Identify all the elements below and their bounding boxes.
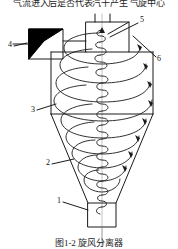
callout-2-cone: 2 (46, 159, 50, 167)
leader-line-1 (63, 202, 88, 210)
figure-container: 气流进入后是否代表汽干产生 气旋中心 (0, 0, 178, 249)
inlet-black-wedge (29, 29, 63, 59)
callout-1-dust-outlet: 1 (57, 197, 61, 205)
callout-4-inlet: 4 (8, 41, 12, 49)
callout-3-cylinder-body: 3 (31, 106, 35, 114)
cyclone-separator-diagram (0, 0, 178, 249)
figure-caption: 图1-2 旋风分离器 (0, 236, 178, 249)
outer-descending-vortex (54, 33, 153, 192)
cone-right-wall (116, 114, 153, 203)
outlet-head-box (86, 22, 129, 52)
cone-left-wall (51, 114, 88, 203)
leader-line-3 (37, 104, 56, 110)
callout-5-gas-outlet-tube: 5 (140, 16, 144, 24)
callout-6-outer-vortex: 6 (157, 55, 161, 63)
leader-line-6 (133, 36, 156, 57)
